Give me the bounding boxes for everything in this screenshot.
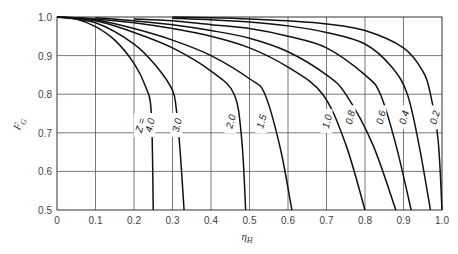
x-tick: 0.7 bbox=[320, 215, 334, 226]
x-tick: 0.9 bbox=[397, 215, 411, 226]
x-axis-label: ηH bbox=[241, 230, 253, 245]
x-tick: 0.3 bbox=[166, 215, 180, 226]
curve-labels: 4.0Z =3.02.01.51.00.80.60.40.2 bbox=[133, 105, 442, 137]
x-tick: 0.1 bbox=[89, 215, 103, 226]
chart: 4.0Z =3.02.01.51.00.80.60.40.2 00.10.20.… bbox=[0, 0, 458, 254]
x-tick: 0.6 bbox=[281, 215, 295, 226]
y-tick: 0.9 bbox=[38, 51, 52, 62]
x-tick: 0.4 bbox=[204, 215, 218, 226]
y-tick: 0.8 bbox=[38, 89, 52, 100]
y-tick: 1.0 bbox=[38, 12, 52, 23]
y-tick: 0.6 bbox=[38, 166, 52, 177]
x-tick: 0.5 bbox=[243, 215, 257, 226]
y-tick-labels: 0.50.60.70.80.91.0 bbox=[38, 12, 52, 216]
y-axis-label: FG bbox=[10, 115, 29, 133]
y-tick: 0.5 bbox=[38, 205, 52, 216]
x-tick: 0 bbox=[54, 215, 60, 226]
x-tick-labels: 00.10.20.30.40.50.60.70.80.91.0 bbox=[54, 215, 449, 226]
x-tick: 1.0 bbox=[435, 215, 449, 226]
y-tick: 0.7 bbox=[38, 128, 52, 139]
x-tick: 0.2 bbox=[127, 215, 141, 226]
x-tick: 0.8 bbox=[358, 215, 372, 226]
